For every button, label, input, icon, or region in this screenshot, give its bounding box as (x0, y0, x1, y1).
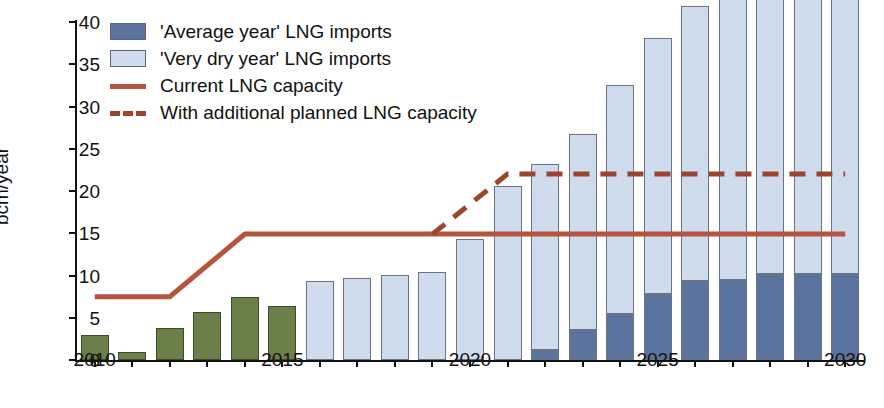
x-tick (582, 360, 584, 367)
x-tick (169, 360, 171, 367)
x-tick (769, 360, 771, 367)
legend-solid-line-icon (110, 84, 146, 89)
lng-imports-chart: bcm/year 0510152025303540 20102015202020… (0, 0, 884, 408)
legend-item: With additional planned LNG capacity (110, 99, 477, 126)
x-tick (619, 360, 621, 367)
legend-item: 'Very dry year' LNG imports (110, 45, 477, 72)
x-tick (694, 360, 696, 367)
x-tick-label: 2020 (449, 350, 491, 369)
y-tick-label: 10 (40, 266, 100, 285)
capacity-line (95, 234, 845, 297)
y-tick-label: 15 (40, 224, 100, 243)
x-tick (507, 360, 509, 367)
y-tick-label: 20 (40, 182, 100, 201)
y-tick-label: 35 (40, 55, 100, 74)
x-tick (431, 360, 433, 367)
legend-label: 'Very dry year' LNG imports (160, 49, 391, 68)
y-tick-label: 25 (40, 139, 100, 158)
x-tick (319, 360, 321, 367)
x-tick (807, 360, 809, 367)
x-tick (356, 360, 358, 367)
legend-dashed-line-icon (110, 111, 146, 116)
chart-legend: 'Average year' LNG imports'Very dry year… (110, 18, 477, 126)
y-axis-title: bcm/year (0, 126, 13, 246)
legend-item: 'Average year' LNG imports (110, 18, 477, 45)
x-tick (244, 360, 246, 367)
legend-swatch-icon (110, 50, 146, 67)
capacity-line (432, 174, 845, 234)
x-tick-label: 2025 (636, 350, 678, 369)
legend-swatch-icon (110, 23, 146, 40)
y-tick-label: 30 (40, 97, 100, 116)
legend-label: 'Average year' LNG imports (160, 22, 392, 41)
y-tick-label: 5 (40, 308, 100, 327)
x-tick-label: 2015 (261, 350, 303, 369)
legend-label: Current LNG capacity (160, 76, 343, 95)
x-tick (544, 360, 546, 367)
x-tick (394, 360, 396, 367)
x-tick-label: 2030 (824, 350, 866, 369)
y-tick-label: 40 (40, 13, 100, 32)
x-tick (206, 360, 208, 367)
legend-item: Current LNG capacity (110, 72, 477, 99)
x-tick (131, 360, 133, 367)
x-tick (732, 360, 734, 367)
legend-label: With additional planned LNG capacity (160, 103, 477, 122)
x-tick-label: 2010 (74, 350, 116, 369)
